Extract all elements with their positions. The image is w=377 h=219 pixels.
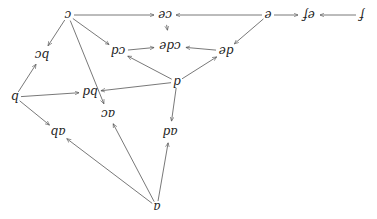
arrow-b-to-ab xyxy=(20,101,50,125)
node-ad: ad xyxy=(162,125,177,139)
node-f: f xyxy=(357,8,365,22)
arrow-d-to-bd xyxy=(101,83,171,91)
node-e: e xyxy=(264,8,271,22)
arrow-cd-to-cde xyxy=(128,48,154,51)
node-ef: ef xyxy=(301,8,315,22)
arrow-e-to-de xyxy=(234,19,263,44)
node-a: a xyxy=(153,200,160,214)
arrow-d-to-ad xyxy=(172,88,177,121)
node-cd: cd xyxy=(110,44,125,58)
arrow-b-to-bd xyxy=(21,93,79,97)
arrow-a-to-ad xyxy=(158,143,168,201)
node-bc: bc xyxy=(35,48,50,62)
arrow-d-to-cd xyxy=(128,56,172,79)
node-cde: cde xyxy=(159,39,181,53)
arrow-d-to-de xyxy=(182,57,217,79)
node-ce: ce xyxy=(158,8,172,22)
node-b: b xyxy=(11,90,19,104)
nodes-group: cceeeffcdcdedebcdbdbacabada xyxy=(11,8,365,214)
arrow-a-to-ac xyxy=(113,124,154,202)
arrow-c-to-bc xyxy=(48,20,65,46)
node-c: c xyxy=(64,8,71,22)
arrow-b-to-bc xyxy=(18,64,36,92)
node-bd: bd xyxy=(82,85,98,99)
node-d: d xyxy=(173,75,181,89)
arrow-a-to-ab xyxy=(67,139,152,204)
node-ab: ab xyxy=(51,125,66,139)
node-ac: ac xyxy=(101,107,115,121)
arrow-de-to-cde xyxy=(186,47,216,50)
lattice-diagram: cceeeffcdcdedebcdbdbacabada xyxy=(0,0,377,219)
arrow-ce-to-cde xyxy=(167,25,168,30)
node-de: de xyxy=(219,44,234,58)
edges-group xyxy=(18,15,356,203)
